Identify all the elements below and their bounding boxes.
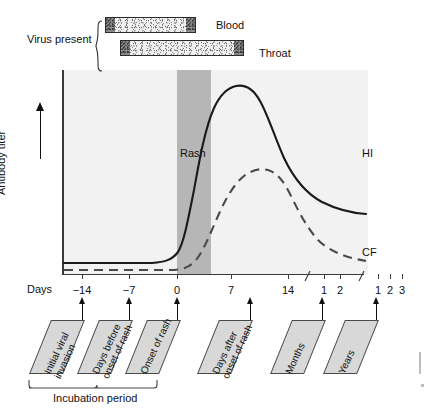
virus-bar-blood <box>105 17 196 33</box>
x-tick-4 <box>288 274 289 279</box>
antibody-curves <box>62 70 368 276</box>
callout-arrowhead-initial-viral-invasion <box>79 297 85 304</box>
callout-arrow-days-after-onset <box>250 304 251 320</box>
x-tick-7 <box>378 274 379 279</box>
x-tick-label-5: 1 <box>321 284 327 296</box>
callout-arrowhead-days-before-onset <box>126 297 132 304</box>
hi-curve <box>64 86 366 263</box>
x-tick-label-7: 1 <box>375 284 381 296</box>
page-edge-dot <box>421 384 424 387</box>
x-tick-9 <box>402 274 403 279</box>
x-tick-6 <box>340 274 341 279</box>
y-axis-title: Antibody titer <box>0 131 7 195</box>
callout-arrow-days-before-onset <box>129 304 130 320</box>
x-tick-8 <box>390 274 391 279</box>
x-tick-label-2: 0 <box>174 284 180 296</box>
callout-arrowhead-years <box>373 297 379 304</box>
x-tick-3 <box>231 274 232 279</box>
callout-arrowhead-onset-of-rash <box>174 297 180 304</box>
antibody-response-figure: Rash Antibody titer HI CF Virus present … <box>0 0 427 413</box>
axis-break-0 <box>303 268 313 280</box>
callout-arrowhead-months <box>319 297 325 304</box>
callout-arrow-months <box>322 304 323 320</box>
callout-box-years <box>323 320 379 374</box>
axis-break-1 <box>357 268 367 280</box>
y-axis-arrow-line <box>40 109 41 159</box>
x-tick-label-8: 2 <box>387 284 393 296</box>
x-tick-label-3: 7 <box>228 284 234 296</box>
incubation-period-bracket-icon <box>28 380 158 389</box>
callout-arrow-onset-of-rash <box>177 304 178 320</box>
callout-arrow-initial-viral-invasion <box>82 304 83 320</box>
hi-curve-label: HI <box>362 148 373 159</box>
virus-bar-throat <box>120 40 244 56</box>
x-tick-5 <box>324 274 325 279</box>
page-edge-mark <box>419 352 421 374</box>
cf-curve-label: CF <box>362 247 377 258</box>
x-axis-name: Days <box>27 284 52 295</box>
x-tick-label-1: −7 <box>123 284 136 296</box>
cf-curve <box>64 169 366 270</box>
x-tick-label-6: 2 <box>337 284 343 296</box>
blood-bar-label: Blood <box>216 20 244 31</box>
x-tick-0 <box>82 274 83 279</box>
x-tick-label-4: 14 <box>282 284 294 296</box>
x-tick-label-0: −14 <box>73 284 92 296</box>
virus-present-bracket-icon <box>95 20 103 72</box>
y-axis-group: Antibody titer <box>30 95 52 255</box>
x-tick-2 <box>177 274 178 279</box>
callout-arrowhead-days-after-onset <box>247 297 253 304</box>
callout-arrow-years <box>376 304 377 320</box>
throat-bar-label: Throat <box>259 48 291 59</box>
incubation-period-label: Incubation period <box>53 393 137 404</box>
virus-present-label: Virus present <box>27 34 92 45</box>
x-tick-1 <box>129 274 130 279</box>
x-tick-label-9: 3 <box>399 284 405 296</box>
